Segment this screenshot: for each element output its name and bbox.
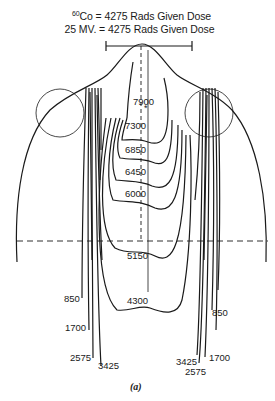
label-right-850: 850 — [212, 307, 228, 318]
label-right-1700: 1700 — [209, 352, 230, 363]
label-6450: 6450 — [125, 166, 146, 177]
label-left-2575: 2575 — [70, 352, 91, 363]
label-left-3425: 3425 — [98, 360, 119, 371]
contour-plot: * — [0, 0, 275, 401]
label-left-1700: 1700 — [65, 322, 86, 333]
label-5150: 5150 — [127, 250, 148, 261]
label-7900: 7900 — [133, 96, 154, 107]
label-7300: 7300 — [125, 120, 146, 131]
label-left-850: 850 — [64, 293, 80, 304]
label-6850: 6850 — [125, 144, 146, 155]
label-6000: 6000 — [125, 188, 146, 199]
label-4300: 4300 — [127, 295, 148, 306]
label-right-2575: 2575 — [185, 366, 206, 377]
isodose-diagram: 60Co = 4275 Rads Given Dose 25 MV. = 427… — [0, 0, 275, 401]
figure-caption: (a) — [130, 381, 142, 392]
